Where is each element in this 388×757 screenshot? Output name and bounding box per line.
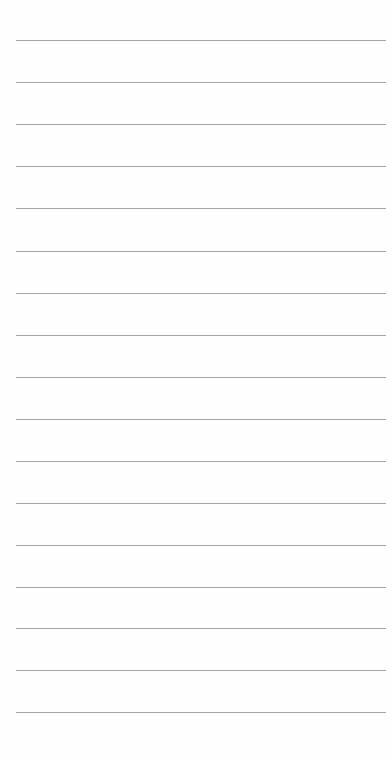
lined-paper-page [0, 0, 388, 757]
ruled-line [16, 419, 386, 420]
ruled-line [16, 40, 386, 41]
ruled-line [16, 712, 386, 713]
ruled-line [16, 208, 386, 209]
ruled-line [16, 124, 386, 125]
ruled-line [16, 82, 386, 83]
ruled-line [16, 670, 386, 671]
ruled-line [16, 628, 386, 629]
ruled-line [16, 587, 386, 588]
ruled-line [16, 377, 386, 378]
ruled-line [16, 545, 386, 546]
ruled-line [16, 251, 386, 252]
ruled-line [16, 166, 386, 167]
ruled-line [16, 503, 386, 504]
ruled-line [16, 335, 386, 336]
ruled-line [16, 293, 386, 294]
ruled-line [16, 461, 386, 462]
